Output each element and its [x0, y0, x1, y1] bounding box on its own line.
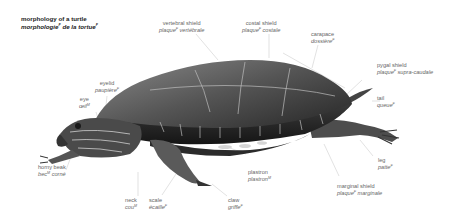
- front-leg: [150, 140, 200, 184]
- label-pygal-shield: pygal shield plaqueF supra-caudale: [377, 62, 433, 76]
- label-scale: scale écailleF: [149, 197, 167, 211]
- label-claw: claw griffeF: [228, 197, 243, 211]
- label-tail: tail queueF: [377, 95, 395, 109]
- label-marginal-shield: marginal shield plaqueF marginale: [337, 183, 382, 197]
- label-leg: leg patteF: [378, 157, 393, 171]
- label-neck: neck couM: [125, 197, 137, 211]
- front-claws: [40, 156, 48, 163]
- tail-shape: [348, 88, 373, 104]
- eye-shape: [75, 123, 81, 129]
- label-carapace: carapace dossièreF: [311, 31, 334, 45]
- label-plastron: plastron plastronM: [248, 169, 271, 183]
- label-eyelid: eyelid paupièreF: [95, 80, 119, 94]
- label-horny-beak: horny beak becM corné: [38, 164, 66, 178]
- label-costal-shield: costal shield plaqueF costale: [242, 20, 280, 34]
- turtle-illustration: [0, 0, 457, 224]
- label-vertebral-shield: vertebral shield plaqueF vertébrale: [159, 20, 204, 34]
- label-eye: eye œilM: [79, 96, 90, 110]
